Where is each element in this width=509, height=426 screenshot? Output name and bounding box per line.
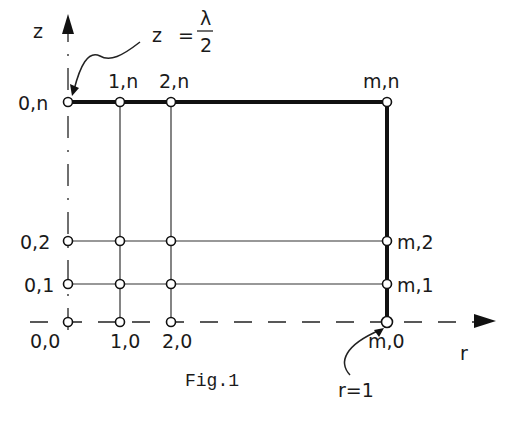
node-0-n [64,98,73,107]
grid-nodes [64,98,393,328]
svg-text:λ: λ [200,7,211,29]
node-2-0 [167,318,176,327]
node-1-1 [116,280,125,289]
r-axis-arrowhead-icon [474,314,496,328]
svg-text:z: z [152,24,162,46]
finite-difference-grid-diagram: z r z = λ 2 r=1 0,n 1,n 2,n m,n 0,2 m,2 … [0,0,509,426]
svg-text:2: 2 [200,34,212,56]
z-equals-lambda-half-annotation: z = λ 2 [152,7,213,56]
label-2-0: 2,0 [162,330,192,352]
label-m-0: m,0 [368,330,405,352]
node-1-0 [116,318,125,327]
z-axis-arrowhead-icon [62,14,74,34]
node-m-n [383,98,392,107]
node-0-2 [64,237,73,246]
label-1-n: 1,n [108,70,138,92]
node-0-0 [64,318,73,327]
label-0-1: 0,1 [24,274,54,296]
node-2-n [167,98,176,107]
node-m-0 [382,317,393,328]
label-0-0: 0,0 [30,330,60,352]
figure-caption: Fig.1 [185,371,239,391]
node-2-2 [167,237,176,246]
node-2-1 [167,280,176,289]
node-m-2 [383,237,392,246]
label-m-n: m,n [363,70,400,92]
node-0-1 [64,280,73,289]
label-0-n: 0,n [18,92,48,114]
z-axis-label: z [33,20,43,42]
node-1-2 [116,237,125,246]
label-0-2: 0,2 [20,231,50,253]
label-m-2: m,2 [397,231,434,253]
label-1-0: 1,0 [110,330,140,352]
r-equals-one-label: r=1 [338,379,374,401]
label-2-n: 2,n [159,70,189,92]
node-1-n [116,98,125,107]
label-m-1: m,1 [397,274,434,296]
node-m-1 [383,280,392,289]
svg-text:=: = [178,24,194,46]
r-axis-label: r [460,342,468,364]
